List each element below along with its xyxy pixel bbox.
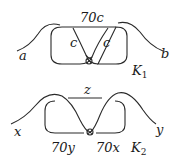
k2-left-end-label: x [14, 125, 21, 138]
k2-name: K2 [131, 141, 146, 157]
k1-name-text: K [132, 63, 142, 78]
k2-name-text: K [131, 140, 141, 155]
k1-right-inner-label: c [103, 36, 110, 49]
k1-subscript: 1 [142, 70, 148, 80]
k2-bottom-left-label: 70y [51, 141, 75, 154]
k1-tangle [17, 22, 163, 64]
k2-tangle [11, 93, 156, 135]
k2-bottom-right-label: 70x [96, 141, 120, 154]
k2-right-end-label: y [156, 123, 163, 136]
k1-right-end-label: b [161, 47, 169, 60]
k1-top-label: 70c [80, 11, 104, 24]
k1-left-end-label: a [19, 49, 27, 62]
k1-name: K1 [132, 64, 147, 80]
k2-subscript: 2 [141, 147, 147, 157]
k1-left-inner-label: c [70, 36, 77, 49]
k2-top-label: z [84, 83, 91, 96]
